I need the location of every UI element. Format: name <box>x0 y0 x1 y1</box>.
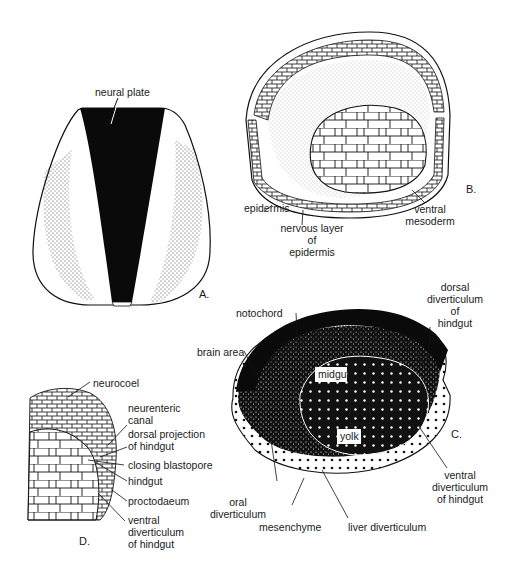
label-vdc-line1: ventral <box>420 469 500 481</box>
label-vdc-line2: diverticulum <box>420 481 500 493</box>
panel-d-drawing <box>28 382 127 521</box>
label-dorsal-line1: dorsal <box>415 281 495 293</box>
label-notochord: notochord <box>236 307 283 319</box>
label-vdd-line2: diverticulum <box>128 526 184 538</box>
label-nervous-line3: epidermis <box>272 246 352 258</box>
label-proctodaeum: proctodaeum <box>128 495 189 507</box>
label-neurenteric-line1: neurenteric <box>128 402 181 414</box>
panel-label-b: B. <box>466 183 476 195</box>
label-ventral-diverticulum-c: ventral diverticulum of hindgut <box>420 469 500 505</box>
label-dp-line1: dorsal projection <box>128 428 205 440</box>
panel-label-c: C. <box>451 428 462 440</box>
label-vdd-line1: ventral <box>128 514 184 526</box>
label-nervous-line1: nervous layer <box>272 222 352 234</box>
label-liver-diverticulum: liver diverticulum <box>348 521 426 533</box>
label-oral-line2: diverticulum <box>205 508 271 520</box>
label-ventral-line2: mesoderm <box>400 215 460 227</box>
label-vdc-line3: of hindgut <box>420 493 500 505</box>
label-neurocoel: neurocoel <box>93 377 139 389</box>
panel-b-drawing <box>246 32 450 225</box>
label-dorsal-diverticulum: dorsal diverticulum of hindgut <box>415 281 495 329</box>
label-nervous-layer: nervous layer of epidermis <box>272 222 352 258</box>
label-ventral-mesoderm: ventral mesoderm <box>400 203 460 227</box>
panel-a-drawing <box>33 98 210 306</box>
label-yolk: yolk <box>340 430 359 442</box>
label-mesenchyme: mesenchyme <box>259 521 321 533</box>
label-midgut: midgut <box>318 368 350 380</box>
panel-label-d: D. <box>79 535 90 547</box>
label-vdd-line3: of hindgut <box>128 538 184 550</box>
label-brain-area: brain area <box>197 346 244 358</box>
label-ventral-diverticulum-d: ventral diverticulum of hindgut <box>128 514 184 550</box>
label-hindgut: hindgut <box>128 475 162 487</box>
label-dorsal-line4: hindgut <box>415 317 495 329</box>
label-oral-line1: oral <box>205 496 271 508</box>
label-closing-blastopore: closing blastopore <box>128 459 213 471</box>
panel-c-drawing <box>232 309 450 518</box>
label-oral-diverticulum: oral diverticulum <box>205 496 271 520</box>
label-neurenteric-line2: canal <box>128 414 181 426</box>
label-nervous-line2: of <box>272 234 352 246</box>
label-dorsal-line3: of <box>415 305 495 317</box>
label-epidermis: epidermis <box>244 202 290 214</box>
label-ventral-line1: ventral <box>400 203 460 215</box>
panel-label-a: A. <box>199 288 209 300</box>
label-dp-line2: of hindgut <box>128 440 205 452</box>
label-neural-plate: neural plate <box>95 86 150 98</box>
label-dorsal-line2: diverticulum <box>415 293 495 305</box>
label-dorsal-projection: dorsal projection of hindgut <box>128 428 205 452</box>
label-neurenteric-canal: neurenteric canal <box>128 402 181 426</box>
